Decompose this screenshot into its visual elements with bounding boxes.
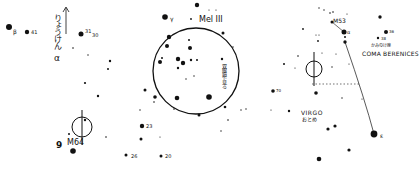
label-star-70: 70 xyxy=(276,89,281,93)
label-constellation-canes: りょうけん xyxy=(52,14,60,49)
label-coma-berenices: COMA BERENICES xyxy=(362,51,419,57)
right-panel-stars xyxy=(270,7,388,161)
label-star-30: 30 xyxy=(92,33,98,38)
label-binocular-note: 双眼鏡で見る xyxy=(221,64,226,88)
label-star-41: 41 xyxy=(31,30,37,35)
label-m53: M53 xyxy=(333,18,346,24)
label-star-36: 36 xyxy=(389,30,394,34)
label-beta: β xyxy=(13,29,17,35)
label-coma-jp: かみのけ座 xyxy=(371,44,391,48)
label-gamma: γ xyxy=(170,16,174,22)
label-star-38: 38 xyxy=(381,37,386,41)
label-star-31: 31 xyxy=(85,29,91,34)
center-panel-stars xyxy=(125,3,247,158)
finder-circle-right xyxy=(306,52,322,86)
label-nine: 9 xyxy=(56,141,62,150)
label-star-23: 23 xyxy=(146,124,152,129)
label-alpha-right: α xyxy=(347,30,350,35)
label-star-20: 20 xyxy=(165,154,171,159)
label-epsilon: ε xyxy=(380,133,383,139)
label-m64: M64 xyxy=(67,139,84,147)
label-mel111: Mel III xyxy=(199,16,223,24)
label-virgo-jp: おとめ xyxy=(302,117,317,122)
label-alpha-left: α xyxy=(54,54,60,63)
label-star-26: 26 xyxy=(131,154,137,159)
